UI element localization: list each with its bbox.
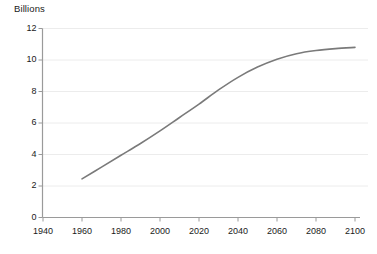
x-tick-label: 1980 — [101, 226, 141, 236]
x-tick-marks — [43, 218, 355, 222]
y-tick-label: 10 — [13, 54, 37, 64]
y-tick-label: 12 — [13, 23, 37, 33]
x-tick-label: 2020 — [179, 226, 219, 236]
x-tick-label: 2080 — [296, 226, 336, 236]
x-tick-label: 2040 — [218, 226, 258, 236]
gridline-group — [43, 29, 369, 187]
y-tick-label: 4 — [13, 149, 37, 159]
x-tick-label: 1960 — [62, 226, 102, 236]
plot-area — [0, 0, 377, 254]
x-tick-label: 2100 — [335, 226, 375, 236]
series-line-world-population — [82, 47, 355, 179]
y-tick-label: 6 — [13, 117, 37, 127]
y-tick-label: 2 — [13, 180, 37, 190]
y-tick-label: 8 — [13, 86, 37, 96]
population-line-chart: Billions 024681012 194019601980200020202… — [0, 0, 377, 254]
x-tick-label: 2060 — [257, 226, 297, 236]
y-tick-label: 0 — [13, 212, 37, 222]
x-tick-label: 2000 — [140, 226, 180, 236]
x-tick-label: 1940 — [23, 226, 63, 236]
